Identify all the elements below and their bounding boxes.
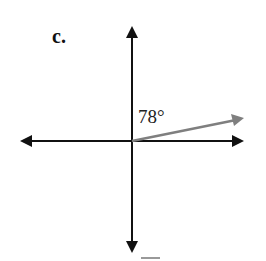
ray-arrowhead-icon [231,114,244,126]
down-arrowhead-icon [126,241,138,253]
angle-label: 78° [138,106,165,128]
figure-label: c. [52,25,66,48]
bottom-mark [141,257,160,259]
left-arrowhead-icon [20,135,32,147]
right-arrowhead-icon [232,135,244,147]
coordinate-diagram [0,0,266,261]
up-arrowhead-icon [126,26,138,38]
